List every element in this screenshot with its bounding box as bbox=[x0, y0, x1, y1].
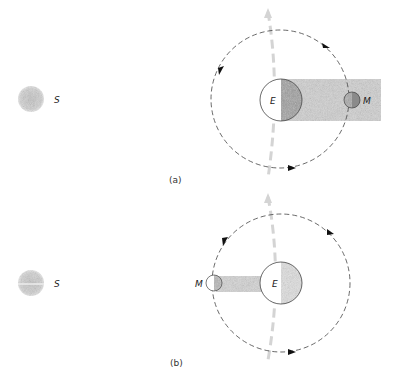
orbit-arrow-icon-b2 bbox=[327, 229, 334, 235]
orbit-arrow-icon-b3 bbox=[288, 349, 296, 355]
moon-label-a: M bbox=[363, 96, 371, 106]
panel-b: S E M (b) bbox=[18, 193, 350, 368]
moon-shadow-b bbox=[216, 276, 262, 292]
sun-a: S bbox=[18, 86, 60, 112]
eclipse-diagram: S E M (a) S bbox=[0, 0, 396, 381]
moon-b: M bbox=[195, 275, 222, 291]
orbit-arrow-icon-a2 bbox=[322, 43, 330, 48]
orbit-arrow-icon-b1 bbox=[222, 237, 228, 246]
caption-b: (b) bbox=[170, 358, 183, 368]
panel-a: S E M (a) bbox=[18, 8, 381, 185]
sun-label-a: S bbox=[54, 95, 60, 105]
earth-a: E bbox=[260, 79, 302, 121]
orbit-arrow-icon-a3 bbox=[288, 165, 296, 171]
caption-a: (a) bbox=[169, 175, 182, 185]
moon-label-b: M bbox=[195, 279, 203, 289]
earth-label-a: E bbox=[270, 96, 276, 106]
axis-arrow-icon-a bbox=[264, 8, 272, 18]
earth-label-b: E bbox=[272, 279, 278, 289]
sun-label-b: S bbox=[54, 279, 60, 289]
axis-arrow-icon-b bbox=[264, 193, 272, 203]
sun-b: S bbox=[18, 270, 60, 296]
earth-b: E bbox=[260, 262, 302, 304]
